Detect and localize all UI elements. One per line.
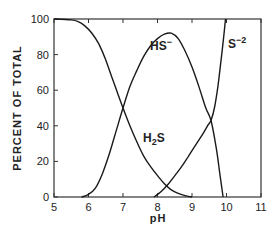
y-tick-label: 80 [37, 49, 49, 61]
h2s-label: H2S [143, 131, 165, 147]
x-tick-label: 6 [85, 201, 91, 213]
curves [54, 19, 226, 197]
y-tick-label: 40 [37, 120, 49, 132]
x-tick-label: 7 [120, 201, 126, 213]
x-tick-label: 10 [220, 201, 232, 213]
x-tick-label: 5 [51, 201, 57, 213]
x-tick-label: 9 [189, 201, 195, 213]
hs-minus-label: HS− [150, 37, 172, 53]
y-tick-label: 100 [31, 13, 49, 25]
s-minus-2-label: S−2 [228, 35, 246, 51]
curve-hs- [82, 33, 224, 197]
ph-speciation-chart: 020406080100 567891011 PERCENT OF TOTAL … [0, 0, 278, 233]
y-tick-label: 0 [43, 191, 49, 203]
y-axis-title: PERCENT OF TOTAL [11, 45, 23, 171]
x-tick-label: 11 [255, 201, 266, 213]
x-axis-title: pH [150, 212, 167, 224]
y-tick-label: 60 [37, 84, 49, 96]
y-tick-label: 20 [37, 155, 49, 167]
